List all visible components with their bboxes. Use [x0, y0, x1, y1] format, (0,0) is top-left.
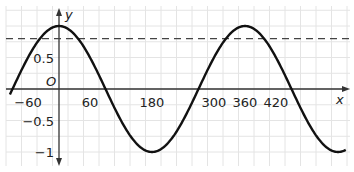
y-axis-label: y [64, 7, 73, 22]
x-axis-label: x [335, 92, 344, 107]
x-tick-label: 300 [202, 95, 227, 110]
cosine-graph: −6060180300360420 0.5−0.5−1 x y O [0, 0, 354, 172]
y-tick-label: −0.5 [22, 114, 54, 129]
y-axis-arrow-down-icon [56, 158, 62, 166]
y-axis-arrow-up-icon [56, 8, 62, 16]
y-tick-label: −1 [35, 145, 54, 160]
x-tick-label: 420 [264, 95, 289, 110]
x-tick-label: 180 [140, 95, 165, 110]
x-tick-label: 60 [82, 95, 99, 110]
x-tick-label: 360 [233, 95, 258, 110]
grid [6, 6, 350, 166]
y-tick-label: 0.5 [33, 51, 54, 66]
origin-label: O [46, 74, 56, 89]
x-tick-labels: −6060180300360420 [14, 95, 288, 110]
x-tick-label: −60 [14, 95, 41, 110]
